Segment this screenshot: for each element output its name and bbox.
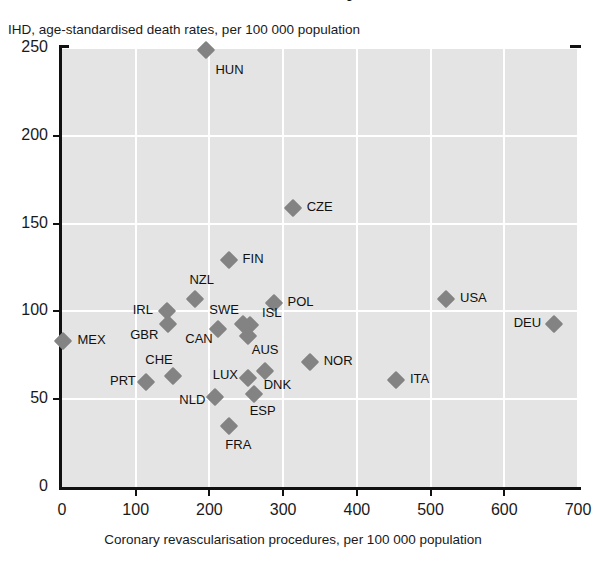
data-point-label-pol: POL (288, 294, 314, 309)
x-axis-tick (208, 487, 210, 496)
x-axis-tick-label: 400 (327, 501, 387, 519)
plot-area (62, 48, 578, 487)
x-axis-tick-label: 0 (32, 501, 92, 519)
y-axis-tick-label: 0 (0, 477, 48, 495)
data-point-label-che: CHE (145, 352, 172, 367)
gridline-horizontal (62, 135, 578, 137)
gridline-vertical (503, 48, 505, 487)
data-point-label-fra: FRA (225, 437, 251, 452)
data-point-label-usa: USA (460, 290, 487, 305)
data-point-label-isl: ISL (262, 305, 282, 320)
gridline-horizontal (62, 47, 578, 49)
x-axis-tick (356, 487, 358, 496)
y-axis-tick-label: 100 (0, 301, 48, 319)
data-point-label-deu: DEU (514, 315, 541, 330)
plot-top-left-cap (59, 45, 69, 48)
y-axis-tick (53, 223, 62, 225)
data-point-label-dnk: DNK (264, 377, 291, 392)
gridline-vertical (282, 48, 284, 487)
y-axis-tick (53, 310, 62, 312)
gridline-vertical (356, 48, 358, 487)
data-point-label-nor: NOR (324, 353, 353, 368)
x-axis-tick (430, 487, 432, 496)
y-axis-spine (59, 45, 62, 490)
x-axis-label: Coronary revascularisation procedures, p… (0, 532, 586, 547)
gridline-vertical (577, 48, 579, 487)
y-axis-tick-label: 200 (0, 126, 48, 144)
x-axis-tick-label: 100 (106, 501, 166, 519)
gridline-vertical (208, 48, 210, 487)
y-axis-tick-label: 250 (0, 38, 48, 56)
x-axis-tick-label: 300 (253, 501, 313, 519)
gridline-vertical (135, 48, 137, 487)
data-point-label-nzl: NZL (189, 272, 214, 287)
chart-title-clipped: Ischaemic heart disease mortality and re… (0, 0, 586, 4)
data-point-label-aus: AUS (252, 342, 279, 357)
data-point-label-mex: MEX (77, 332, 105, 347)
data-point-label-prt: PRT (110, 373, 136, 388)
data-point-label-gbr: GBR (130, 327, 158, 342)
y-axis-label: IHD, age-standardised death rates, per 1… (8, 22, 360, 37)
x-axis-tick (282, 487, 284, 496)
gridline-horizontal (62, 398, 578, 400)
data-point-label-hun: HUN (215, 62, 243, 77)
x-axis-tick (503, 487, 505, 496)
x-axis-tick-label: 700 (548, 501, 596, 519)
gridline-horizontal (62, 223, 578, 225)
y-axis-tick-label: 50 (0, 389, 48, 407)
chart-title: Ischaemic heart disease mortality and re… (0, 0, 586, 4)
data-point-label-cze: CZE (307, 199, 333, 214)
data-point-label-irl: IRL (133, 302, 153, 317)
data-point-label-lux: LUX (213, 367, 238, 382)
plot-top-right-cap (570, 45, 581, 48)
data-point-label-swe: SWE (209, 302, 239, 317)
x-axis-tick-label: 200 (179, 501, 239, 519)
data-point-label-esp: ESP (250, 403, 276, 418)
gridline-vertical (430, 48, 432, 487)
data-point-label-nld: NLD (179, 392, 205, 407)
x-axis-tick (135, 487, 137, 496)
data-point-label-can: CAN (185, 331, 212, 346)
y-axis-tick (53, 135, 62, 137)
y-axis-tick (53, 398, 62, 400)
plot-background-texture (62, 48, 578, 487)
x-axis-tick-label: 500 (401, 501, 461, 519)
data-point-label-ita: ITA (410, 371, 429, 386)
y-axis-tick-label: 150 (0, 214, 48, 232)
x-axis-tick-label: 600 (474, 501, 534, 519)
data-point-label-fin: FIN (243, 251, 264, 266)
